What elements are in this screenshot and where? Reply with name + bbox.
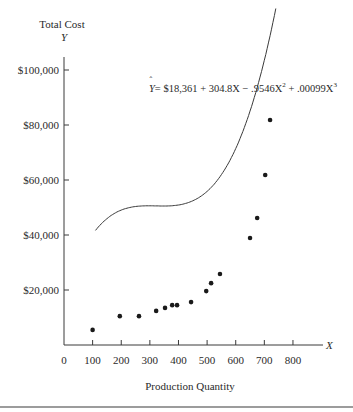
data-point <box>189 300 194 305</box>
data-point <box>175 303 180 308</box>
data-point <box>218 272 223 277</box>
x-tick-label: 0 <box>61 354 67 366</box>
y-ticks: $20,000$40,000$60,000$80,000$100,000 <box>18 64 69 296</box>
x-tick-label: 100 <box>84 354 101 366</box>
y-tick-label: $40,000 <box>23 229 59 241</box>
data-point <box>209 281 214 286</box>
data-point <box>118 314 123 319</box>
y-axis-title: Total Cost <box>39 18 84 30</box>
y-axis-symbol: Y <box>61 31 69 43</box>
x-axis-symbol: X <box>325 339 334 351</box>
data-point <box>154 309 159 314</box>
x-tick-label: 200 <box>113 354 130 366</box>
x-tick-label: 700 <box>256 354 273 366</box>
y-tick-label: $80,000 <box>23 119 59 131</box>
svg-text:Y= $18,361 + 304.8X − .9546X2: Y= $18,361 + 304.8X − .9546X2 + .00099X3 <box>149 81 337 94</box>
data-point <box>263 173 268 178</box>
x-tick-label: 500 <box>199 354 216 366</box>
x-ticks: 0100200300400500600700800 <box>61 340 301 366</box>
x-tick-label: 400 <box>170 354 187 366</box>
x-tick-label: 300 <box>142 354 159 366</box>
regression-equation: Y= $18,361 + 304.8X − .9546X2 + .00099X3… <box>149 76 337 94</box>
data-point <box>90 328 95 333</box>
y-tick-label: $100,000 <box>18 64 60 76</box>
fitted-curve <box>96 9 276 231</box>
data-point <box>163 306 168 311</box>
svg-text:ˆ: ˆ <box>150 76 153 85</box>
y-tick-label: $60,000 <box>23 174 59 186</box>
x-tick-label: 800 <box>285 354 302 366</box>
y-tick-label: $20,000 <box>23 284 59 296</box>
x-axis-title: Production Quantity <box>145 380 235 392</box>
chart-canvas: $20,000$40,000$60,000$80,000$100,000 010… <box>0 0 353 412</box>
data-point <box>170 303 175 308</box>
data-point <box>204 289 209 294</box>
data-point <box>248 236 253 241</box>
data-point <box>137 314 142 319</box>
data-point <box>255 216 260 221</box>
x-tick-label: 600 <box>227 354 244 366</box>
data-point <box>268 118 273 123</box>
data-points <box>90 118 272 332</box>
